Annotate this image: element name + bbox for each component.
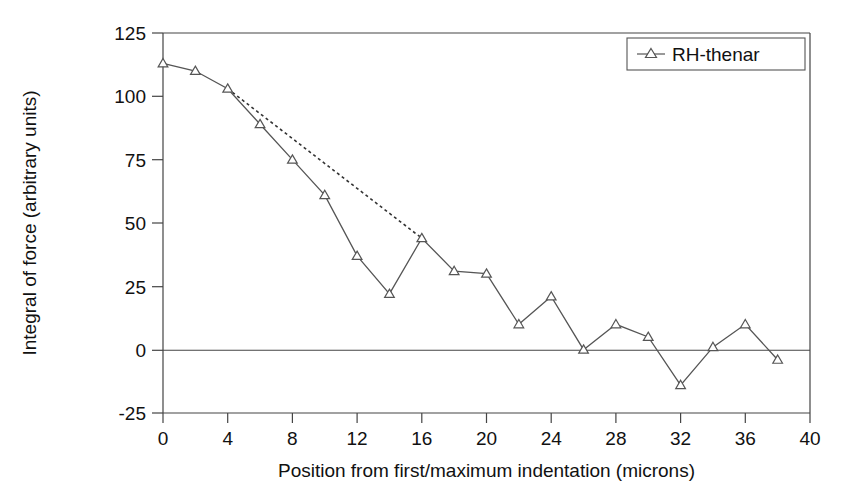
y-tick-label-25: 25 (125, 277, 146, 298)
x-tick-label-12: 12 (347, 428, 368, 449)
y-axis-title: Integral of force (arbitrary units) (19, 90, 40, 355)
x-tick-label-40: 40 (799, 428, 820, 449)
legend: RH-thenar (627, 38, 805, 70)
y-tick-label-neg25: -25 (119, 403, 146, 424)
y-tick-label-0: 0 (135, 340, 146, 361)
x-tick-label-28: 28 (605, 428, 626, 449)
y-tick-label-100: 100 (114, 86, 146, 107)
x-tick-label-4: 4 (222, 428, 233, 449)
y-tick-label-75: 75 (125, 150, 146, 171)
x-tick-label-32: 32 (670, 428, 691, 449)
y-tick-label-125: 125 (114, 23, 146, 44)
x-tick-label-24: 24 (541, 428, 563, 449)
chart-background (0, 0, 846, 500)
x-tick-label-8: 8 (287, 428, 298, 449)
line-chart: 125 100 75 50 25 0 -25 0 4 8 12 (0, 0, 846, 500)
x-tick-label-20: 20 (476, 428, 497, 449)
x-tick-label-0: 0 (158, 428, 169, 449)
y-tick-label-50: 50 (125, 213, 146, 234)
x-tick-label-16: 16 (411, 428, 432, 449)
legend-label-rh-thenar: RH-thenar (672, 44, 760, 65)
x-tick-label-36: 36 (735, 428, 756, 449)
chart-figure: 125 100 75 50 25 0 -25 0 4 8 12 (0, 0, 846, 500)
x-axis-title: Position from first/maximum indentation … (278, 460, 695, 481)
